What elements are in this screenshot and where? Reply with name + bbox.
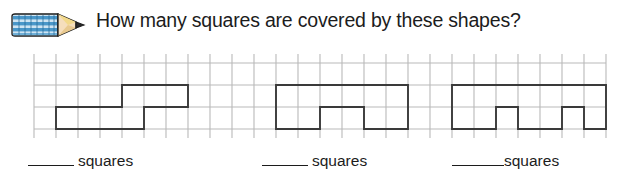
worksheet-header: How many squares are covered by these sh… [0, 0, 627, 48]
squares-grid [0, 48, 627, 144]
answer-line-1[interactable]: squares [28, 152, 133, 170]
page-title: How many squares are covered by these sh… [96, 9, 521, 32]
answer-line-2[interactable]: squares [262, 152, 367, 170]
answer-blank-1[interactable] [28, 152, 74, 166]
answer-blank-2[interactable] [262, 152, 308, 166]
answer-label-1: squares [78, 152, 133, 169]
answer-label-3: squares [504, 152, 559, 169]
answer-label-2: squares [312, 152, 367, 169]
answer-blank-3[interactable] [452, 152, 504, 166]
answer-line-3[interactable]: squares [452, 152, 559, 170]
pencil-icon [10, 12, 86, 38]
grid-area [0, 48, 627, 144]
